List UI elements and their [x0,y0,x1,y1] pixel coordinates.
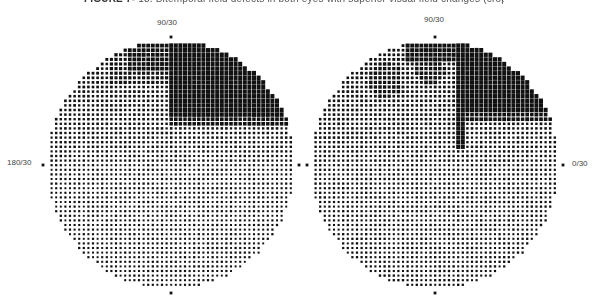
right-eye-visual-field [0,0,598,306]
